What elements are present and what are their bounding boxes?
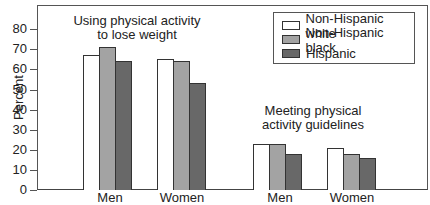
y-tick-label: 40	[3, 103, 27, 116]
y-tick-label: 80	[3, 22, 27, 35]
y-tick	[30, 190, 37, 191]
y-tick	[30, 29, 37, 30]
x-label-men-1: Men	[80, 190, 140, 205]
bar	[115, 61, 132, 190]
annotation-line: activity guidelines	[228, 118, 398, 132]
bar	[343, 154, 360, 190]
y-tick-label: 10	[3, 163, 27, 176]
legend-item-black: Non-Hispanic black	[282, 33, 414, 46]
bar	[327, 148, 344, 190]
legend-item-hispanic: Hispanic	[282, 47, 356, 60]
y-tick-label: 20	[3, 143, 27, 156]
y-tick	[30, 110, 37, 111]
annotation-line: to lose weight	[52, 28, 222, 42]
legend-swatch	[282, 49, 300, 58]
y-tick	[30, 130, 37, 131]
legend-label: Hispanic	[306, 46, 356, 61]
bar	[253, 144, 270, 190]
y-tick	[30, 150, 37, 151]
legend-swatch	[282, 35, 300, 44]
bar	[157, 59, 174, 190]
legend-swatch	[282, 21, 300, 30]
bar	[269, 144, 286, 190]
y-tick-label: 50	[3, 83, 27, 96]
bar	[173, 61, 190, 190]
annotation-lose-weight: Using physical activity to lose weight	[52, 14, 222, 42]
bar	[99, 47, 116, 190]
y-tick	[30, 90, 37, 91]
annotation-line: Meeting physical	[228, 104, 398, 118]
y-tick	[30, 170, 37, 171]
y-tick-label: 0	[3, 183, 27, 196]
y-tick	[30, 49, 37, 50]
y-tick	[30, 69, 37, 70]
x-label-women-2: Women	[322, 190, 382, 205]
bar	[189, 83, 206, 190]
y-axis-label: Percent	[11, 68, 26, 128]
y-tick-label: 60	[3, 62, 27, 75]
legend: Non-Hispanic white Non-Hispanic black Hi…	[273, 12, 415, 64]
x-label-women-1: Women	[152, 190, 212, 205]
y-tick-label: 30	[3, 123, 27, 136]
x-label-men-2: Men	[250, 190, 310, 205]
y-tick-label: 70	[3, 42, 27, 55]
bar	[359, 158, 376, 190]
annotation-line: Using physical activity	[52, 14, 222, 28]
bar	[83, 55, 100, 190]
annotation-guidelines: Meeting physical activity guidelines	[228, 104, 398, 132]
bar	[285, 154, 302, 190]
